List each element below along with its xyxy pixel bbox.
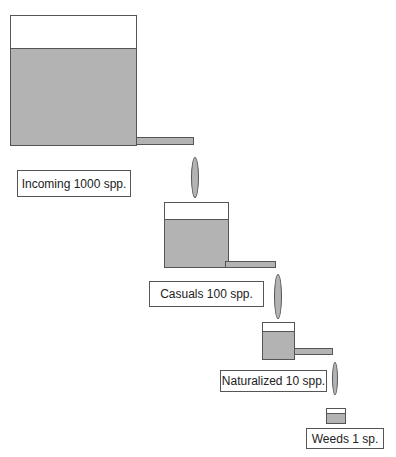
tank-casuals-fill [165, 219, 228, 267]
drop-naturalized-to-weeds [332, 362, 338, 395]
label-incoming: Incoming 1000 spp. [17, 170, 131, 197]
label-weeds: Weeds 1 sp. [306, 428, 384, 449]
drop-casuals-to-naturalized [274, 274, 282, 319]
pipe-naturalized [294, 348, 333, 355]
tank-weeds [326, 408, 346, 424]
tank-casuals [164, 202, 229, 268]
tank-naturalized-fill [263, 331, 294, 359]
label-casuals: Casuals 100 spp. [149, 281, 264, 307]
tank-incoming-fill [11, 48, 136, 145]
tank-naturalized [262, 322, 295, 360]
tank-incoming [10, 15, 137, 146]
drop-incoming-to-casuals [191, 157, 199, 198]
pipe-incoming [136, 137, 194, 145]
tank-weeds-fill [327, 413, 345, 423]
pipe-casuals [225, 261, 276, 268]
label-naturalized: Naturalized 10 spp. [220, 370, 327, 392]
